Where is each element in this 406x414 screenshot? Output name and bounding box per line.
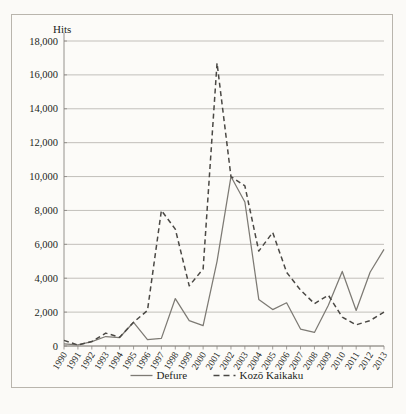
y-axis-tick-label: 18,000 (29, 36, 58, 47)
x-axis-tick-label: 2010 (329, 350, 348, 372)
series-lines-group (64, 63, 384, 345)
y-axis-tick-label: 10,000 (29, 171, 58, 182)
legend: DefureKozō Kaikaku (131, 369, 304, 381)
series-line-1 (64, 177, 384, 345)
y-axis-tick-label: 4,000 (34, 273, 58, 284)
x-axis-ticks-group: 1990199119921993199419951996199719981999… (51, 346, 390, 372)
y-axis-tick-label: 8,000 (34, 205, 58, 216)
chart-figure: 18,00016,00014,00012,00010,0008,0006,000… (0, 0, 406, 414)
y-axis-tick-label: 16,000 (29, 69, 58, 80)
y-axis-tick-label: 14,000 (29, 103, 58, 114)
hits-line-chart: 18,00016,00014,00012,00010,0008,0006,000… (12, 15, 392, 387)
gridlines-group (64, 41, 384, 346)
y-axis-tick-label: 12,000 (29, 137, 58, 148)
y-axis-ticks-group: 18,00016,00014,00012,00010,0008,0006,000… (29, 36, 67, 352)
series-line-2 (64, 63, 384, 345)
y-axis-tick-label: 2,000 (34, 307, 58, 318)
y-axis-title: Hits (53, 23, 71, 35)
y-axis-tick-label: 0 (53, 341, 58, 352)
legend-label-1: Defure (157, 369, 188, 381)
y-axis-tick-label: 6,000 (34, 239, 58, 250)
legend-label-2: Kozō Kaikaku (240, 369, 304, 381)
chart-frame: 18,00016,00014,00012,00010,0008,0006,000… (11, 14, 393, 388)
x-axis-tick-label: 2013 (371, 350, 390, 372)
